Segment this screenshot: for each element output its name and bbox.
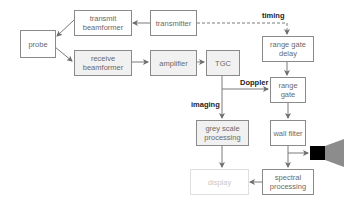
transmitter-box: transmitter [150,10,197,36]
transmit-beamformer-box: transmit beamformer [74,10,132,36]
range-gate-delay-box: range gate delay [262,36,314,62]
wall-filter-box: wall filter [270,120,306,146]
tgc-box: TGC [206,50,240,76]
probe-box: probe [20,30,56,58]
doppler-label: Doppler [240,78,268,87]
display-box: display [190,169,249,195]
grey-scale-processing-box: grey scale processing [196,120,249,146]
receive-beamformer-box: receive beamformer [74,50,132,76]
range-gate-box: range gate [270,77,306,103]
speaker-icon [310,139,344,167]
timing-label: timing [262,11,285,20]
amplifier-box: amplifier [150,50,197,76]
imaging-label: imaging [191,100,220,109]
spectral-processing-box: spectral processing [262,169,314,195]
